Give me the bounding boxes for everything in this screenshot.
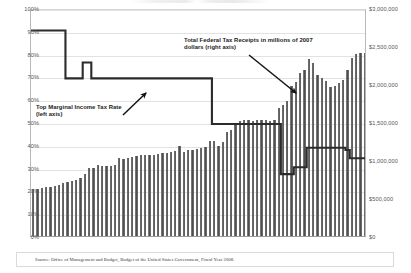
left-axis-tick: 50% <box>11 120 39 126</box>
left-axis-tick: 90% <box>11 29 39 35</box>
annotation-tax-receipts: Total Federal Tax Receipts in millions o… <box>184 37 330 52</box>
chart-figure: 100%90%80%70%60%50%40%30%20%10%0% $3,000… <box>0 0 411 273</box>
left-axis-tick: 60% <box>11 97 39 103</box>
source-note-text: Source: Office of Management and Budget,… <box>35 257 234 262</box>
right-axis-tick: $3,000,000 <box>369 6 411 12</box>
right-axis-tick: $500,000 <box>369 196 411 202</box>
left-axis-tick: 40% <box>11 143 39 149</box>
right-axis-tick: $2,000,000 <box>369 82 411 88</box>
cropped-title-remnant <box>130 0 270 3</box>
left-axis-tick: 0% <box>11 234 39 240</box>
left-axis-tick: 10% <box>11 211 39 217</box>
right-axis-tick: $2,500,000 <box>369 44 411 50</box>
left-axis-tick: 20% <box>11 188 39 194</box>
right-axis-tick: $0 <box>369 234 411 240</box>
right-axis-tick: $1,500,000 <box>369 120 411 126</box>
left-axis-tick: 70% <box>11 74 39 80</box>
left-axis-tick: 30% <box>11 166 39 172</box>
right-axis-tick: $1,000,000 <box>369 158 411 164</box>
annotation-top-marginal-rate: Top Marginal Income Tax Rate (left axis) <box>36 104 128 119</box>
source-note-box: Source: Office of Management and Budget,… <box>16 252 394 267</box>
left-axis-tick: 100% <box>11 6 39 12</box>
left-axis-tick: 80% <box>11 52 39 58</box>
